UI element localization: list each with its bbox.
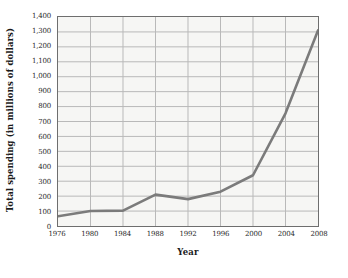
y-tick-label: 1,100: [32, 57, 51, 65]
y-tick-label: 600: [38, 133, 51, 141]
data-series-line: [58, 17, 318, 226]
y-tick-label: 200: [38, 193, 51, 201]
x-axis-title: Year: [57, 247, 319, 257]
x-tick-label: 1988: [147, 230, 164, 238]
y-tick-label: 700: [38, 118, 51, 126]
x-tick-label: 2008: [310, 230, 327, 238]
y-tick-label: 1,200: [32, 42, 51, 50]
y-axis-title-text: Total spending (in millions of dollars): [5, 28, 15, 212]
y-tick-label: 300: [38, 178, 51, 186]
x-tick-label: 1976: [48, 230, 65, 238]
x-tick-label: 1992: [179, 230, 196, 238]
y-tick-label: 400: [38, 163, 51, 171]
y-tick-label: 100: [38, 208, 51, 216]
y-tick-label: 1,400: [32, 12, 51, 20]
y-tick-label: 1,300: [32, 27, 51, 35]
line-chart-figure: Total spending (in millions of dollars) …: [0, 0, 348, 278]
y-tick-label: 900: [38, 87, 51, 95]
x-tick-label: 2004: [278, 230, 295, 238]
x-axis-tick-labels: 197619801984198819921996200020042008: [57, 230, 319, 244]
y-tick-label: 800: [38, 102, 51, 110]
x-tick-label: 1984: [114, 230, 131, 238]
x-tick-label: 1996: [212, 230, 229, 238]
plot-area: [57, 16, 319, 227]
x-tick-label: 2000: [245, 230, 262, 238]
y-tick-label: 500: [38, 148, 51, 156]
x-tick-label: 1980: [81, 230, 98, 238]
y-tick-label: 1,000: [32, 72, 51, 80]
y-axis-tick-labels: 01002003004005006007008009001,0001,1001,…: [18, 16, 54, 227]
y-axis-title: Total spending (in millions of dollars): [0, 0, 20, 240]
